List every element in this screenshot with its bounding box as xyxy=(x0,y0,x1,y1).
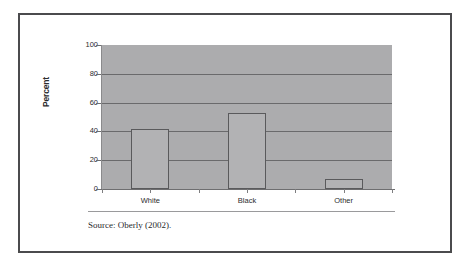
x-axis-tick-mark xyxy=(392,189,393,193)
gridline xyxy=(102,103,392,104)
x-axis-tick-mark xyxy=(295,189,296,193)
bar-black xyxy=(228,113,266,189)
figure-frame: Percent 100806040200 WhiteBlackOther Sou… xyxy=(18,13,452,253)
y-axis-tick-label: 0 xyxy=(74,185,98,193)
x-axis-tick-mark xyxy=(150,189,151,193)
x-axis-tick-label: White xyxy=(102,196,199,205)
bar-other xyxy=(325,179,363,189)
source-divider xyxy=(88,211,395,212)
y-axis-tick-label: 20 xyxy=(74,156,98,164)
x-axis-tick-label: Black xyxy=(199,196,296,205)
x-axis-tick-label: Other xyxy=(295,196,392,205)
plot-panel xyxy=(102,45,392,189)
x-axis-tick-mark xyxy=(102,189,103,193)
x-axis-tick-mark xyxy=(344,189,345,193)
y-axis-tick-label: 100 xyxy=(74,41,98,49)
bar-white xyxy=(131,129,169,189)
x-axis-tick-marks xyxy=(98,189,395,195)
y-axis-tick-label: 80 xyxy=(74,70,98,78)
y-axis-tick-label: 40 xyxy=(74,127,98,135)
y-axis-title: Percent xyxy=(41,62,51,122)
y-axis-tick-label: 60 xyxy=(74,99,98,107)
x-axis-tick-mark xyxy=(247,189,248,193)
gridline xyxy=(102,74,392,75)
x-axis-tick-mark xyxy=(199,189,200,193)
source-note: Source: Oberly (2002). xyxy=(88,220,171,230)
bar-chart: Percent 100806040200 WhiteBlackOther xyxy=(20,15,454,255)
y-axis-tick-labels: 100806040200 xyxy=(70,15,98,255)
